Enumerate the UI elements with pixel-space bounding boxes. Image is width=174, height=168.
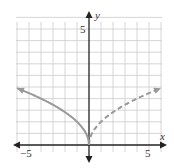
x-axis-right-arrow-icon <box>160 142 167 149</box>
y-axis-label: y <box>94 9 100 21</box>
x-tick-label-5: 5 <box>145 147 151 159</box>
y-tick-label-5: 5 <box>80 23 86 35</box>
graph: y x 5 −5 5 <box>0 0 174 168</box>
y-axis-up-arrow-icon <box>86 11 93 18</box>
x-axis-label: x <box>159 130 165 142</box>
x-axis-left-arrow-icon <box>13 142 20 149</box>
x-tick-label-neg5: −5 <box>20 147 32 159</box>
y-axis-down-arrow-icon <box>86 156 93 163</box>
axis-labels: y x 5 −5 5 <box>20 9 165 159</box>
